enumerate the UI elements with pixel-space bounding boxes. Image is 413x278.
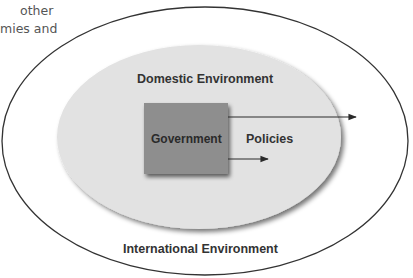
international-environment-label: International Environment <box>123 243 278 256</box>
government-label: Government <box>151 133 222 145</box>
domestic-environment-label: Domestic Environment <box>137 73 273 86</box>
policies-label: Policies <box>246 133 293 146</box>
